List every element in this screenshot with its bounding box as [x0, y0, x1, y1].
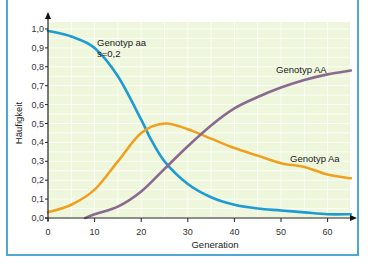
svg-text:10: 10	[90, 227, 100, 237]
svg-text:0,4: 0,4	[31, 137, 44, 147]
x-axis-label: Generation	[191, 239, 238, 250]
svg-text:0,9: 0,9	[31, 43, 44, 53]
svg-text:0,0: 0,0	[31, 213, 44, 223]
svg-text:0,1: 0,1	[31, 194, 44, 204]
svg-text:0,6: 0,6	[31, 100, 44, 110]
label-genotyp-Aa: Genotyp Aa	[290, 153, 340, 164]
svg-text:60: 60	[323, 227, 333, 237]
y-axis-label: Häufigkeit	[13, 102, 24, 145]
svg-text:0: 0	[45, 227, 50, 237]
label-selection-coefficient: s=0,2	[97, 48, 121, 59]
svg-text:0,8: 0,8	[31, 62, 44, 72]
svg-text:50: 50	[276, 227, 286, 237]
svg-text:0,3: 0,3	[31, 156, 44, 166]
svg-text:1,0: 1,0	[31, 24, 44, 34]
svg-text:0,2: 0,2	[31, 175, 44, 185]
svg-text:40: 40	[229, 227, 239, 237]
label-genotyp-aa: Genotyp aa	[97, 37, 147, 48]
svg-text:0,7: 0,7	[31, 81, 44, 91]
line-chart: 0,00,10,20,30,40,50,60,70,80,91,00102030…	[0, 0, 368, 269]
svg-text:0,5: 0,5	[31, 119, 44, 129]
label-genotyp-AA: Genotyp AA	[276, 64, 327, 75]
svg-text:30: 30	[183, 227, 193, 237]
svg-text:20: 20	[136, 227, 146, 237]
